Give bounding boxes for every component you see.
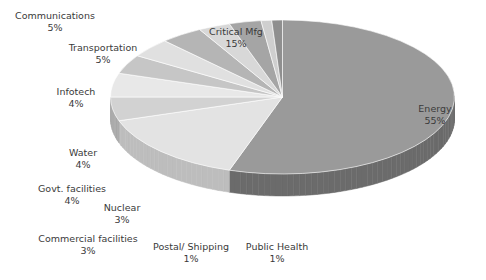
slice-label-nuclear-name: Nuclear: [104, 202, 141, 213]
pie-slice-side-energy: [430, 134, 433, 158]
pie-slice-side-critical-mfg: [202, 165, 207, 188]
pie-slice-side-critical-mfg: [147, 144, 151, 168]
pie-slice-side-energy: [401, 151, 405, 175]
pie-slice-side-critical-mfg: [159, 150, 163, 174]
slice-label-communications-pct: 5%: [5, 22, 105, 34]
pie-slice-side-critical-mfg: [123, 126, 125, 150]
slice-label-public-health-pct: 1%: [236, 253, 318, 265]
slice-label-commercial-facilities: Commercial facilities 3%: [24, 233, 152, 257]
slice-label-infotech-pct: 4%: [42, 98, 110, 110]
slice-label-critical-mfg-pct: 15%: [196, 38, 276, 50]
slice-label-public-health-name: Public Health: [246, 241, 308, 252]
slice-label-postal-shipping-name: Postal/ Shipping: [153, 241, 229, 252]
pie-slice-side-energy: [396, 153, 400, 177]
pie-slice-side-critical-mfg: [186, 161, 191, 184]
pie-slice-side-critical-mfg: [163, 152, 167, 176]
pie-slice-side-energy: [270, 174, 276, 196]
pie-slice-side-energy: [229, 170, 235, 193]
slice-label-communications: Communications 5%: [5, 10, 105, 34]
pie-slice-side-energy: [424, 139, 427, 163]
slice-label-transportation-pct: 5%: [56, 54, 150, 66]
pie-slice-side-critical-mfg: [197, 164, 202, 187]
slice-label-govt-facilities-name: Govt. facilities: [38, 183, 106, 194]
pie-slice-side-energy: [294, 174, 300, 196]
pie-slice-side-energy: [329, 170, 335, 193]
slice-label-energy-pct: 55%: [405, 115, 465, 127]
pie-slice-side-energy: [276, 174, 282, 196]
pie-slice-side-energy: [351, 166, 356, 189]
pie-slice-side-energy: [335, 170, 341, 193]
slice-label-energy-name: Energy: [418, 103, 451, 114]
slice-label-infotech-name: Infotech: [57, 86, 96, 97]
pie-slice-side-energy: [382, 158, 387, 182]
slice-label-critical-mfg-name: Critical Mfg: [209, 26, 263, 37]
pie-slice-side-energy: [323, 171, 329, 194]
pie-slice-side-energy: [427, 136, 430, 160]
slice-label-commercial-facilities-pct: 3%: [24, 245, 152, 257]
pie-slice-side-critical-mfg: [134, 136, 137, 160]
slice-label-postal-shipping-pct: 1%: [145, 253, 237, 265]
pie-slice-side-energy: [317, 172, 323, 195]
pie-slice-side-energy: [387, 156, 392, 180]
pie-slice-side-critical-mfg: [151, 146, 155, 170]
pie-slice-side-critical-mfg: [119, 121, 121, 146]
slice-label-nuclear-pct: 3%: [89, 214, 155, 226]
pie-slice-side-critical-mfg: [140, 140, 143, 164]
pie-slice-side-critical-mfg: [131, 133, 134, 157]
pie-slice-side-critical-mfg: [125, 128, 128, 152]
slice-label-nuclear: Nuclear 3%: [89, 202, 155, 226]
pie-slice-side-energy: [417, 143, 421, 167]
pie-slice-side-critical-mfg: [224, 169, 230, 192]
slice-label-energy: Energy 55%: [405, 103, 465, 127]
pie-slice-side-energy: [264, 174, 270, 196]
pie-slice-side-energy: [377, 160, 382, 184]
pie-slice-side-energy: [392, 155, 397, 179]
pie-slice-side-critical-mfg: [121, 123, 123, 148]
slice-label-water-name: Water: [69, 147, 97, 158]
pie-slice-side-energy: [306, 173, 312, 195]
pie-slice-side-energy: [282, 174, 288, 196]
pie-slice-side-critical-mfg: [143, 142, 147, 166]
pie-slice-side-energy: [258, 173, 264, 195]
pie-slice-side-critical-mfg: [172, 156, 177, 180]
pie-slice-side-energy: [346, 168, 351, 191]
pie-chart-page: Critical Mfg 15% Energy 55% Communicatio…: [0, 0, 486, 280]
pie-slice-side-energy: [241, 172, 247, 195]
pie-slice-side-energy: [372, 161, 377, 184]
pie-slice-side-critical-mfg: [213, 167, 219, 190]
pie-slice-side-energy: [357, 165, 362, 188]
slice-label-public-health: Public Health 1%: [236, 241, 318, 265]
pie-slice-side-energy: [288, 174, 294, 196]
pie-slice-side-critical-mfg: [218, 168, 224, 191]
pie-slice-side-energy: [235, 171, 241, 194]
pie-slice-side-critical-mfg: [155, 149, 159, 173]
pie-slice-side-energy: [300, 173, 306, 195]
pie-slice-side-energy: [367, 163, 372, 186]
slice-label-transportation: Transportation 5%: [56, 42, 150, 66]
pie-slice-side-energy: [433, 132, 436, 156]
pie-slice-side-critical-mfg: [137, 138, 140, 162]
pie-slice-side-energy: [340, 169, 346, 192]
slice-label-postal-shipping: Postal/ Shipping 1%: [145, 241, 237, 265]
pie-slice-side-energy: [312, 172, 318, 194]
pie-slice-side-energy: [247, 172, 253, 195]
pie-slice-side-critical-mfg: [181, 159, 186, 183]
slice-label-communications-name: Communications: [15, 10, 95, 21]
pie-slice-side-energy: [420, 141, 423, 165]
pie-slice-side-energy: [436, 129, 439, 153]
pie-slice-side-energy: [405, 149, 409, 173]
slice-label-commercial-facilities-name: Commercial facilities: [38, 233, 137, 244]
slice-label-infotech: Infotech 4%: [42, 86, 110, 110]
pie-slice-side-communications: [117, 118, 119, 143]
pie-slice-side-energy: [409, 147, 413, 171]
slice-label-critical-mfg: Critical Mfg 15%: [196, 26, 276, 50]
pie-slice-side-energy: [441, 124, 443, 148]
pie-slice-side-energy: [413, 145, 417, 169]
pie-slice-side-critical-mfg: [177, 158, 182, 182]
pie-slice-side-critical-mfg: [207, 166, 212, 189]
pie-slice-side-critical-mfg: [167, 154, 172, 178]
pie-slice-side-energy: [252, 173, 258, 195]
slice-label-water: Water 4%: [52, 147, 114, 171]
pie-slice-side-energy: [439, 127, 441, 151]
slice-label-water-pct: 4%: [52, 159, 114, 171]
